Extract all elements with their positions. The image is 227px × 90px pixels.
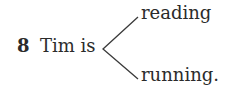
option-reading[interactable]: reading bbox=[141, 3, 211, 23]
option-running[interactable]: running. bbox=[141, 65, 219, 85]
